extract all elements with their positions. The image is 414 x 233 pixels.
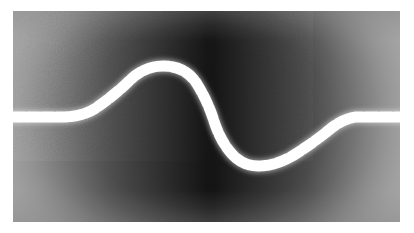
sinusoid-dashed-trace xyxy=(13,66,400,166)
figure-root xyxy=(0,0,414,233)
sinusoid-curve-svg xyxy=(13,11,400,222)
micrograph-plate xyxy=(13,11,400,222)
micrograph-plate-inner xyxy=(13,11,400,222)
